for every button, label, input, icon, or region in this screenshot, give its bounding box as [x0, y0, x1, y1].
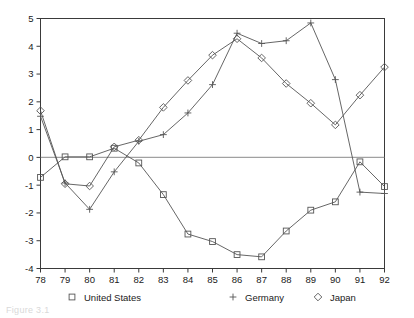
x-tick-label: 85 [207, 274, 218, 285]
series-japan [37, 35, 389, 190]
y-tick-label: -1 [25, 180, 33, 191]
plus-marker [381, 190, 388, 197]
chart-legend: United StatesGermanyJapan [69, 292, 356, 303]
legend-item-japan[interactable]: Japan [314, 292, 356, 303]
y-tick-label: 5 [28, 13, 33, 24]
legend-label: Japan [330, 292, 356, 303]
x-tick-label: 84 [183, 274, 194, 285]
x-tick-label: 90 [330, 274, 341, 285]
plus-marker [332, 76, 339, 83]
x-tick-label: 92 [379, 274, 390, 285]
series-germany [37, 20, 388, 213]
plus-marker [357, 189, 364, 196]
x-tick-label: 82 [133, 274, 144, 285]
square-marker [69, 294, 75, 300]
series-united-states [38, 145, 388, 259]
legend-item-united-states[interactable]: United States [69, 292, 141, 303]
x-tick-label: 91 [355, 274, 366, 285]
chart-figure: 543210-1-2-3-4 7879808182838485868788899… [0, 0, 414, 318]
x-axis-labels: 787980818283848586878889909192 [35, 274, 390, 285]
x-axis-ticks [41, 269, 385, 273]
y-axis-ticks [37, 19, 41, 269]
x-tick-label: 78 [35, 274, 46, 285]
series-line [41, 39, 385, 186]
plot-frame [41, 19, 385, 269]
plus-marker [258, 40, 265, 47]
y-tick-label: 3 [28, 68, 33, 79]
x-tick-label: 89 [305, 274, 316, 285]
legend-label: Germany [245, 292, 284, 303]
y-tick-label: 2 [28, 96, 33, 107]
legend-item-germany[interactable]: Germany [230, 292, 285, 303]
y-axis-labels: 543210-1-2-3-4 [25, 13, 33, 274]
x-tick-label: 88 [281, 274, 292, 285]
y-tick-label: -2 [25, 207, 33, 218]
y-tick-label: 4 [28, 41, 33, 52]
x-tick-label: 86 [232, 274, 243, 285]
x-tick-label: 80 [84, 274, 95, 285]
figure-caption: Figure 3.1 [6, 305, 50, 315]
y-tick-label: -4 [25, 263, 33, 274]
plus-marker [230, 294, 237, 301]
y-tick-label: 0 [28, 152, 33, 163]
diamond-marker [314, 293, 322, 301]
x-tick-label: 81 [109, 274, 120, 285]
plus-marker [283, 37, 290, 44]
legend-label: United States [84, 292, 141, 303]
x-tick-label: 87 [256, 274, 267, 285]
x-tick-label: 79 [60, 274, 71, 285]
y-tick-label: -3 [25, 235, 33, 246]
y-tick-label: 1 [28, 124, 33, 135]
line-chart: 543210-1-2-3-4 7879808182838485868788899… [0, 0, 414, 318]
plus-marker [307, 20, 314, 27]
data-series-layer [37, 20, 389, 260]
x-tick-label: 83 [158, 274, 169, 285]
